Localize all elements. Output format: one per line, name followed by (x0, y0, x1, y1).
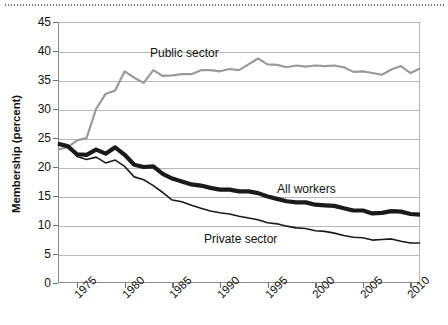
y-tick-mark-35 (53, 80, 58, 81)
public-sector-label: Public sector (150, 46, 219, 60)
y-tick-label-10: 10 (11, 219, 51, 231)
y-tick-label-0: 0 (11, 277, 51, 289)
y-tick-mark-20 (53, 167, 58, 168)
y-tick-mark-5 (53, 254, 58, 255)
y-tick-label-25: 25 (11, 132, 51, 144)
series-line-all-workers (58, 144, 420, 215)
y-tick-mark-25 (53, 138, 58, 139)
all-workers-label: All workers (277, 182, 336, 196)
chart-root: Membership (percent) 0510152025303540451… (0, 0, 448, 325)
y-tick-label-30: 30 (11, 103, 51, 115)
y-tick-label-35: 35 (11, 74, 51, 86)
series-line-public-sector (58, 59, 420, 150)
top-dotted-rule (4, 4, 444, 6)
y-tick-label-15: 15 (11, 190, 51, 202)
y-tick-label-5: 5 (11, 248, 51, 260)
y-tick-label-20: 20 (11, 161, 51, 173)
private-sector-label: Private sector (204, 232, 277, 246)
y-tick-mark-40 (53, 51, 58, 52)
y-tick-mark-45 (53, 22, 58, 23)
y-tick-mark-10 (53, 225, 58, 226)
y-tick-mark-0 (53, 283, 58, 284)
y-tick-label-40: 40 (11, 45, 51, 57)
y-tick-mark-30 (53, 109, 58, 110)
y-tick-label-45: 45 (11, 16, 51, 28)
y-tick-mark-15 (53, 196, 58, 197)
